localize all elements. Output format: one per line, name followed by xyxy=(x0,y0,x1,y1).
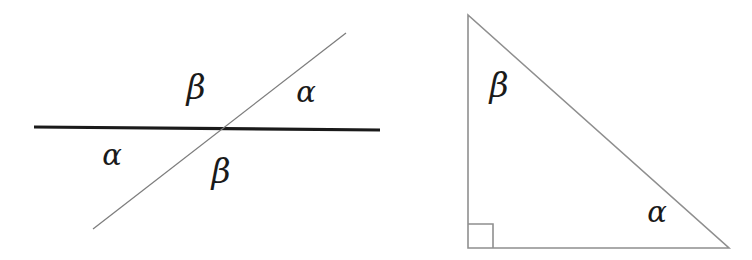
angle-label-alpha-bottom-left: α xyxy=(102,141,122,170)
angle-label-beta-bottom: β xyxy=(211,155,230,188)
angle-label-alpha-base-right: α xyxy=(647,198,667,227)
horizontal-line xyxy=(34,127,380,130)
right-angle-marker xyxy=(468,224,493,248)
angle-label-alpha-top-right: α xyxy=(296,78,316,107)
transversal-line xyxy=(93,33,346,229)
figure-canvas: β α α β β α xyxy=(0,0,752,260)
angle-label-beta-top: β xyxy=(186,71,205,104)
intersecting-lines-svg xyxy=(0,0,752,260)
angle-label-beta-apex: β xyxy=(489,69,508,102)
triangle-outline xyxy=(468,15,729,248)
